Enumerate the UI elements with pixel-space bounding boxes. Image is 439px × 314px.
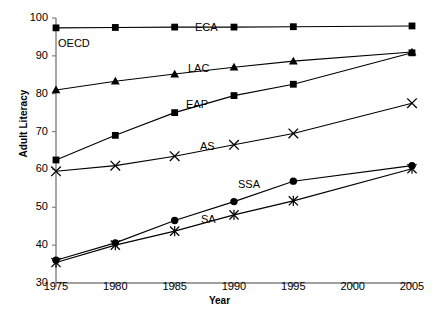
inline-label-sa: SA [201, 214, 216, 225]
series-eca [53, 23, 416, 32]
y-tick-label: 50 [18, 201, 48, 212]
x-tick-label: 1990 [212, 281, 256, 292]
inline-label-lac: LAC [188, 63, 209, 74]
x-tick-label: 2005 [390, 281, 434, 292]
data-series [51, 23, 417, 268]
inline-label-ssa: SSA [238, 179, 260, 190]
series-as [51, 98, 417, 176]
axes [52, 18, 412, 287]
y-tick-label: 40 [18, 239, 48, 250]
inline-label-eap: EAP [186, 99, 208, 110]
inline-label-oecd: OECD [58, 38, 90, 49]
y-tick-label: 90 [18, 50, 48, 61]
x-tick-label: 2000 [331, 281, 375, 292]
adult-literacy-line-chart: Adult Literacy Year 30405060708090100 19… [0, 0, 439, 314]
y-tick-label: 60 [18, 163, 48, 174]
series-sa [51, 163, 416, 267]
y-tick-label: 80 [18, 88, 48, 99]
x-tick-label: 1985 [153, 281, 197, 292]
y-tick-label: 100 [18, 12, 48, 23]
y-tick-label: 70 [18, 126, 48, 137]
x-tick-label: 1975 [34, 281, 78, 292]
x-tick-label: 1995 [271, 281, 315, 292]
series-lac [52, 48, 417, 94]
x-tick-label: 1980 [93, 281, 137, 292]
inline-label-as: AS [200, 141, 215, 152]
inline-label-eca: ECA [195, 22, 218, 33]
